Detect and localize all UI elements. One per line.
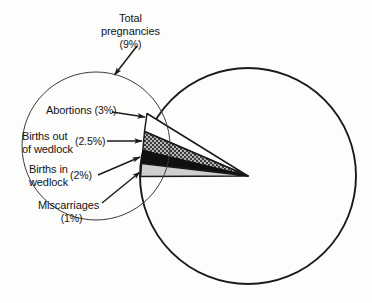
label-miscarriages: Miscarriages (1%): [38, 199, 99, 224]
label-abortions: Abortions (3%): [46, 104, 116, 117]
label-births-in-wedlock-line2: wedlock: [29, 176, 68, 188]
label-births-in-wedlock-lines: Births in wedlock: [29, 163, 68, 188]
leader-births-in-wedlock: [98, 157, 140, 175]
label-births-out-of-wedlock-percent: (2.5%): [73, 130, 105, 148]
label-births-in-wedlock-line1: Births in: [29, 163, 68, 175]
label-total-pregnancies: Total pregnancies (9%): [101, 12, 160, 51]
label-abortions-percent: (3%): [95, 104, 117, 116]
label-total-pregnancies-line2: pregnancies: [101, 25, 160, 38]
label-births-out-of-wedlock-line2: of wedlock: [22, 143, 73, 155]
leader-abortions: [112, 112, 145, 117]
label-abortions-text: Abortions: [46, 104, 92, 116]
label-total-pregnancies-percent: (9%): [101, 38, 160, 51]
label-births-out-of-wedlock: Births out of wedlock (2.5%): [22, 130, 105, 155]
leader-miscarriages: [102, 172, 140, 203]
label-miscarriages-percent: (1%): [38, 212, 99, 225]
label-total-pregnancies-line1: Total: [119, 12, 142, 24]
label-births-in-wedlock-percent: (2%): [68, 163, 92, 182]
label-miscarriages-line1: Miscarriages: [38, 199, 99, 211]
label-births-in-wedlock: Births in wedlock (2%): [29, 163, 92, 188]
label-births-out-of-wedlock-lines: Births out of wedlock: [22, 130, 73, 155]
label-births-out-of-wedlock-line1: Births out: [22, 130, 67, 142]
pie-chart-figure: Total pregnancies (9%) Abortions (3%) Bi…: [0, 0, 372, 303]
